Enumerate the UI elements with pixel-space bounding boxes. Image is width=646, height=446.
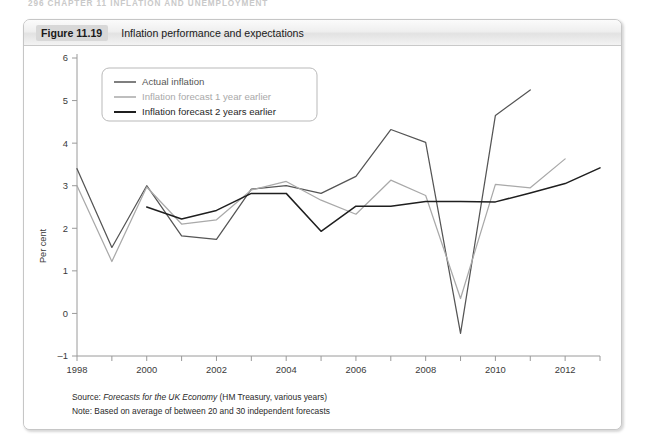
running-head: 296 CHAPTER 11 INFLATION AND UNEMPLOYMEN…	[28, 0, 268, 8]
chart-legend: Actual inflationInflation forecast 1 yea…	[102, 68, 317, 121]
x-tick-label: 2002	[206, 364, 227, 375]
caption-source-rest: (HM Treasury, various years)	[217, 392, 327, 402]
figure-number-badge: Figure 11.19	[36, 25, 108, 41]
figure-title: Inflation performance and expectations	[121, 27, 304, 39]
figure-header: Figure 11.19 Inflation performance and e…	[24, 20, 621, 46]
caption-source-title: Forecasts for the UK Economy	[103, 392, 217, 402]
y-tick-label: 5	[63, 95, 68, 106]
y-tick-label: 2	[63, 223, 68, 234]
y-axis-title: Per cent	[38, 228, 48, 263]
x-tick-label: 2010	[485, 364, 506, 375]
y-tick-label: 1	[63, 265, 68, 276]
y-tick-label: –1	[58, 350, 68, 361]
legend-label-2: Inflation forecast 2 years earlier	[142, 106, 277, 117]
figure-caption: Source: Forecasts for the UK Economy (HM…	[72, 391, 330, 418]
legend-label-1: Inflation forecast 1 year earlier	[142, 91, 272, 102]
y-tick-label: 3	[63, 180, 68, 191]
x-tick-label: 2000	[136, 364, 157, 375]
caption-source: Source: Forecasts for the UK Economy (HM…	[72, 391, 330, 404]
caption-source-label: Source:	[72, 392, 103, 402]
y-axis: –10123456	[58, 52, 77, 361]
series-line-1	[77, 159, 565, 299]
x-tick-label: 1998	[67, 364, 88, 375]
figure-panel: Figure 11.19 Inflation performance and e…	[23, 19, 622, 430]
x-tick-label: 2006	[346, 364, 367, 375]
series-line-2	[147, 168, 600, 231]
line-chart: –10123456 199820002002200420062008201020…	[24, 46, 621, 391]
x-tick-label: 2012	[555, 364, 576, 375]
x-tick-label: 2004	[276, 364, 297, 375]
x-tick-label: 2008	[415, 364, 436, 375]
y-tick-label: 4	[63, 138, 68, 149]
legend-label-0: Actual inflation	[142, 76, 204, 87]
series-lines	[77, 90, 600, 334]
x-axis: 19982000200220042006200820102012	[67, 356, 600, 375]
figure-body: –10123456 199820002002200420062008201020…	[24, 46, 621, 429]
y-tick-label: 0	[63, 308, 68, 319]
y-tick-label: 6	[63, 52, 68, 63]
chart-plot-area: –10123456 199820002002200420062008201020…	[24, 46, 621, 391]
caption-note: Note: Based on average of between 20 and…	[72, 405, 330, 418]
